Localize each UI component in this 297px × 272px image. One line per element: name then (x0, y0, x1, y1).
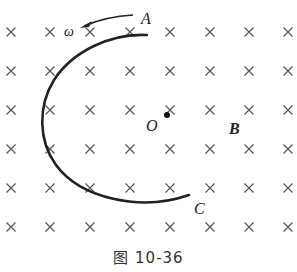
field-cross-icon (126, 184, 135, 193)
field-cross-icon (126, 106, 135, 115)
field-cross-icon (46, 28, 55, 37)
rotation-arrow-icon (84, 15, 133, 26)
field-cross-icon (245, 145, 254, 154)
field-cross-icon (206, 223, 215, 232)
field-cross-icon (206, 184, 215, 193)
field-cross-icon (206, 106, 215, 115)
field-cross-icon (86, 223, 95, 232)
field-cross-icon (166, 67, 175, 76)
field-cross-icon (126, 145, 135, 154)
field-cross-icon (7, 184, 16, 193)
field-cross-icon (206, 28, 215, 37)
field-cross-icon (7, 145, 16, 154)
field-cross-icon (126, 67, 135, 76)
field-cross-icon (284, 223, 293, 232)
field-cross-icon (245, 28, 254, 37)
field-cross-icon (86, 106, 95, 115)
label-omega: ω (64, 24, 74, 39)
label-o: O (146, 117, 158, 134)
field-cross-icon (86, 67, 95, 76)
magnetic-field-diagram: ω A O B C (0, 0, 297, 272)
field-cross-icon (284, 145, 293, 154)
field-cross-icon (7, 223, 16, 232)
arrowhead-icon (80, 21, 92, 28)
field-cross-icon (7, 106, 16, 115)
field-cross-icon (284, 106, 293, 115)
label-b: B (228, 120, 240, 137)
field-cross-icon (166, 184, 175, 193)
field-cross-icon (284, 28, 293, 37)
label-c: C (194, 200, 205, 217)
field-cross-icon (46, 223, 55, 232)
field-cross-icon (7, 28, 16, 37)
field-cross-icon (245, 184, 254, 193)
semicircular-rod-arc (42, 35, 189, 202)
figure-caption: 图 10-36 (0, 246, 297, 267)
field-cross-icon (245, 223, 254, 232)
field-cross-icon (46, 106, 55, 115)
field-cross-icon (7, 67, 16, 76)
field-cross-icon (46, 184, 55, 193)
field-cross-icon (206, 67, 215, 76)
center-point-o (164, 112, 170, 118)
field-cross-icon (126, 223, 135, 232)
field-cross-icon (86, 145, 95, 154)
field-cross-icon (166, 28, 175, 37)
field-cross-icon (166, 145, 175, 154)
field-cross-icon (166, 223, 175, 232)
field-cross-icon (245, 106, 254, 115)
field-cross-icon (206, 145, 215, 154)
field-cross-icon (284, 67, 293, 76)
field-cross-icon (284, 184, 293, 193)
label-a: A (140, 10, 151, 27)
field-cross-icon (46, 67, 55, 76)
field-cross-icon (245, 67, 254, 76)
field-cross-icon (86, 28, 95, 37)
